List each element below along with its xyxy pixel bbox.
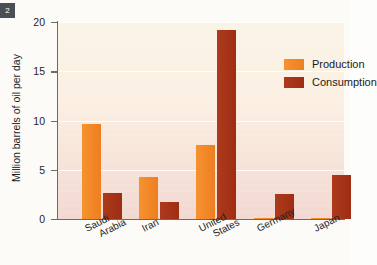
x-axis-label: Germany — [255, 205, 297, 233]
x-axis-label-line: Japan — [312, 212, 341, 234]
x-axis-label: SaudiArabia — [83, 206, 128, 243]
x-axis-label: Japan — [312, 212, 341, 234]
x-axis-label-line: Germany — [255, 205, 297, 233]
x-axis-label: UnitedStates — [197, 207, 241, 244]
x-axis-label-line: Iran — [140, 216, 160, 234]
x-axis-label: Iran — [140, 216, 160, 234]
